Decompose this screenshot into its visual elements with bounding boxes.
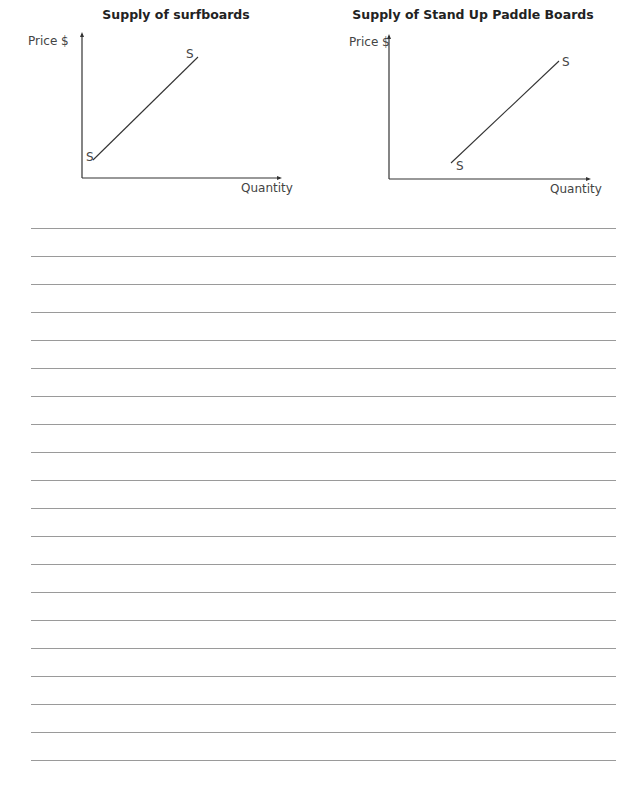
- x-axis-arrow-icon: [586, 177, 591, 181]
- answer-line: [31, 536, 616, 537]
- y-axis-label: Price $: [349, 35, 390, 49]
- answer-line: [31, 480, 616, 481]
- answer-lines: [31, 228, 616, 788]
- answer-line: [31, 452, 616, 453]
- supply-curve-label-start: S: [86, 150, 94, 164]
- answer-line: [31, 396, 616, 397]
- answer-line: [31, 732, 616, 733]
- x-axis-label: Quantity: [241, 181, 293, 195]
- supply-curve-label-start: S: [456, 159, 464, 173]
- answer-line: [31, 620, 616, 621]
- answer-line: [31, 284, 616, 285]
- supply-curve: [451, 61, 559, 163]
- graph-title: Supply of surfboards: [102, 7, 249, 22]
- answer-line: [31, 312, 616, 313]
- answer-line: [31, 592, 616, 593]
- graph-title: Supply of Stand Up Paddle Boards: [352, 7, 593, 22]
- supply-chart-surfboards: Supply of surfboards Price $ Quantity S …: [0, 0, 320, 200]
- graph-paddle-boards: Supply of Stand Up Paddle Boards Price $…: [320, 0, 641, 200]
- answer-line: [31, 648, 616, 649]
- x-axis-label: Quantity: [550, 182, 602, 196]
- answer-line: [31, 676, 616, 677]
- answer-line: [31, 760, 616, 761]
- x-axis-arrow-icon: [277, 176, 282, 180]
- answer-line: [31, 424, 616, 425]
- y-axis-arrow-icon: [80, 32, 84, 37]
- answer-line: [31, 564, 616, 565]
- answer-line: [31, 340, 616, 341]
- y-axis-label: Price $: [28, 34, 69, 48]
- graph-surfboards: Supply of surfboards Price $ Quantity S …: [0, 0, 320, 200]
- answer-line: [31, 368, 616, 369]
- supply-curve-label-end: S: [186, 47, 194, 61]
- answer-line: [31, 228, 616, 229]
- supply-curve: [93, 57, 198, 160]
- supply-chart-paddle-boards: Supply of Stand Up Paddle Boards Price $…: [320, 0, 641, 200]
- answer-line: [31, 704, 616, 705]
- answer-line: [31, 508, 616, 509]
- supply-curve-label-end: S: [562, 55, 570, 69]
- answer-line: [31, 256, 616, 257]
